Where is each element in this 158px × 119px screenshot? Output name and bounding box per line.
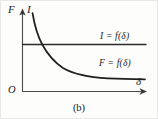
series-curve-decaying-F — [33, 13, 146, 79]
figure-caption: (b) — [0, 103, 158, 114]
y-axis-label-force: F — [8, 4, 15, 15]
x-axis-label-delta: δ — [136, 76, 141, 87]
figure-panel-b: F I O δ I = f(δ) F = f(δ) (b) — [0, 0, 158, 119]
y-axis-label-current: I — [27, 4, 31, 15]
series-label-constant-I: I = f(δ) — [100, 32, 129, 42]
origin-label: O — [8, 85, 16, 96]
series-label-decaying-F: F = f(δ) — [99, 59, 131, 69]
